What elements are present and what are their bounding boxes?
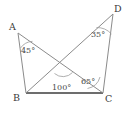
angle-label-p: 100°: [52, 83, 71, 92]
geometry-figure: A B C D 45° 35° 100° 65°: [0, 0, 127, 114]
angle-label-a: 45°: [21, 46, 35, 55]
angle-arc-p: [55, 73, 73, 77]
segment-cd: [103, 14, 113, 93]
diagonal-bd: [26, 14, 113, 93]
angle-label-c: 65°: [81, 77, 95, 86]
angle-label-d: 35°: [91, 30, 105, 39]
segment-ab: [18, 33, 26, 93]
vertex-label-a: A: [8, 21, 16, 32]
vertex-label-b: B: [13, 92, 20, 103]
vertex-label-d: D: [114, 3, 122, 14]
geometry-canvas: A B C D 45° 35° 100° 65°: [0, 0, 127, 114]
vertex-label-c: C: [105, 93, 112, 104]
